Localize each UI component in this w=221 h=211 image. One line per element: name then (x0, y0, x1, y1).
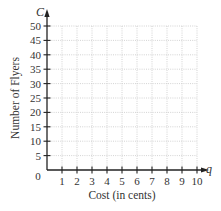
x-tick-label: 6 (134, 175, 140, 187)
grid-lines (47, 26, 197, 170)
x-tick-label: 3 (89, 175, 95, 187)
y-tick-label: 10 (30, 135, 42, 147)
y-tick-label: 30 (30, 78, 42, 90)
y-variable-label: C (36, 5, 45, 19)
y-tick-label: 40 (30, 49, 42, 61)
origin-label: 0 (35, 170, 41, 182)
x-tick-label: 1 (59, 175, 65, 187)
x-tick-label: 4 (104, 175, 110, 187)
y-tick-label: 20 (30, 106, 42, 118)
x-tick-label: 5 (119, 175, 125, 187)
axes (44, 9, 209, 173)
x-tick-label: 2 (74, 175, 80, 187)
x-variable-label: q (206, 162, 212, 176)
y-axis-arrow-icon (44, 9, 49, 17)
x-tick-label: 8 (164, 175, 170, 187)
x-axis-title: Cost (in cents) (88, 189, 155, 202)
x-tick-label: 7 (149, 175, 155, 187)
y-tick-label: 25 (30, 92, 42, 104)
y-tick-label: 5 (36, 150, 42, 162)
y-axis-title: Number of Flyers (9, 57, 22, 139)
coordinate-grid-chart: 12345678910 5101520253035404550 0 C q Co… (0, 0, 221, 211)
x-tick-label: 9 (179, 175, 185, 187)
y-tick-labels: 5101520253035404550 (30, 20, 42, 162)
y-tick-label: 50 (30, 20, 42, 32)
y-tick-label: 35 (30, 63, 42, 75)
y-tick-label: 15 (30, 121, 42, 133)
tick-marks (44, 26, 198, 174)
y-tick-label: 45 (30, 34, 42, 46)
x-tick-label: 10 (192, 175, 204, 187)
x-tick-labels: 12345678910 (59, 175, 203, 187)
